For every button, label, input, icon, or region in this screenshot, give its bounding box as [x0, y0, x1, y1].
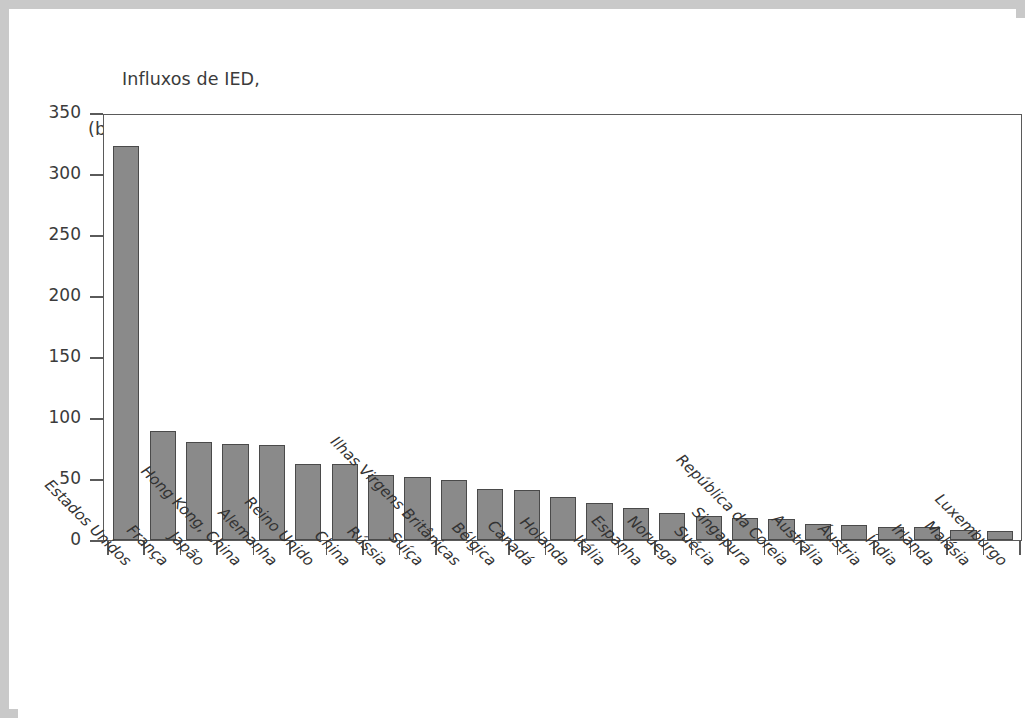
y-axis-tick-mark [90, 357, 103, 359]
bar-slot [945, 115, 981, 540]
y-axis-tick-mark [90, 235, 103, 237]
bar-slot [618, 115, 654, 540]
bar-slot [254, 115, 290, 540]
chart-title-line-1: Influxos de IED, [122, 69, 260, 89]
y-axis-tick-label: 0 [70, 529, 81, 549]
bar-slot [545, 115, 581, 540]
y-axis-tick-label: 100 [49, 407, 81, 427]
y-axis-tick-label: 300 [49, 163, 81, 183]
y-axis: 050100150200250300350 [18, 114, 103, 541]
bar-slot [436, 115, 472, 540]
bar-slot [217, 115, 253, 540]
y-axis-tick-mark [90, 296, 103, 298]
figure-border: Influxos de IED, (bilhões de dólares ame… [0, 0, 1025, 718]
bar-series [104, 115, 1021, 540]
bar-slot [181, 115, 217, 540]
y-axis-tick-mark [90, 113, 103, 115]
y-axis-tick-label: 200 [49, 285, 81, 305]
bar-slot [290, 115, 326, 540]
bar-slot [873, 115, 909, 540]
bar[interactable] [550, 497, 576, 540]
bar-slot [800, 115, 836, 540]
bar-slot [581, 115, 617, 540]
figure-page: Influxos de IED, (bilhões de dólares ame… [18, 18, 1025, 718]
bar-slot [836, 115, 872, 540]
y-axis-tick-mark [90, 479, 103, 481]
y-axis-tick-label: 250 [49, 224, 81, 244]
y-axis-tick-label: 350 [49, 102, 81, 122]
bar[interactable] [295, 464, 321, 540]
y-axis-tick-mark [90, 174, 103, 176]
bar-slot [982, 115, 1018, 540]
y-axis-tick-mark [90, 418, 103, 420]
bar-slot [472, 115, 508, 540]
bar-slot [909, 115, 945, 540]
bar-slot [399, 115, 435, 540]
y-axis-tick-label: 150 [49, 346, 81, 366]
plot-area [103, 114, 1022, 541]
bar-slot [727, 115, 763, 540]
bar[interactable] [113, 146, 139, 540]
bar-slot [763, 115, 799, 540]
x-axis-labels: Estados UnidosFrançaJapãoHong Kong, Chin… [103, 541, 1022, 711]
bar-slot [508, 115, 544, 540]
